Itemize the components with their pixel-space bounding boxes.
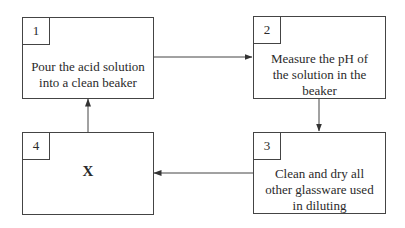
step-3-box: 3 Clean and dry all other glassware used… (253, 132, 386, 214)
step-4-number: 4 (23, 133, 50, 160)
step-2-box: 2 Measure the pH of the solution in the … (253, 16, 386, 99)
step-3-text: Clean and dry all other glassware used i… (254, 166, 385, 214)
step-2-text: Measure the pH of the solution in the be… (254, 51, 385, 99)
step-3-number: 3 (254, 133, 281, 160)
step-2-number: 2 (254, 17, 281, 44)
step-1-text: Pour the acid solution into a clean beak… (23, 59, 153, 91)
step-4-box: 4 X (22, 132, 154, 215)
step-1-number: 1 (23, 18, 50, 45)
step-1-box: 1 Pour the acid solution into a clean be… (22, 17, 154, 99)
step-4-unknown-x: X (23, 163, 153, 179)
